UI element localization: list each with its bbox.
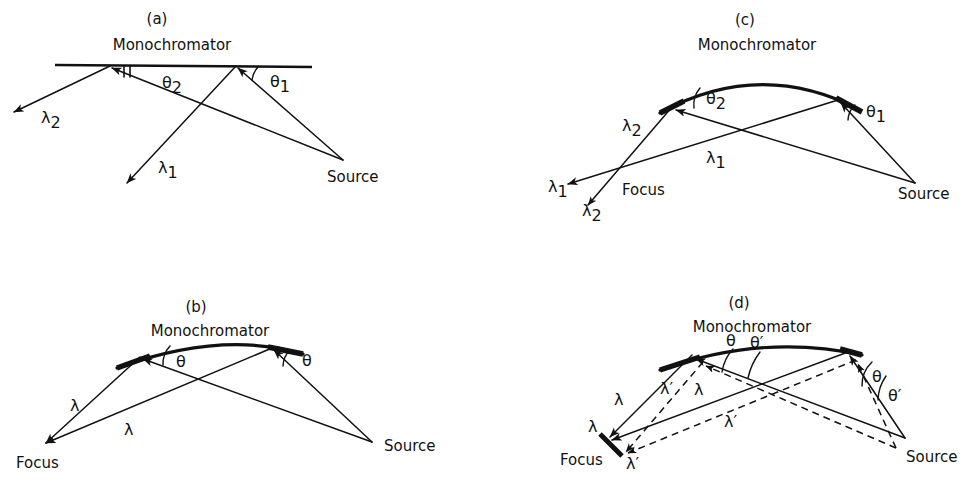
theta-left-label-d: θ xyxy=(726,331,736,350)
panel-a: (a) Monochromator θ2 θ1 λ2 xyxy=(14,10,379,186)
panel-c-title: Monochromator xyxy=(698,36,817,54)
monochromator-curved-surface-c xyxy=(660,85,860,113)
ray-source-to-left-point-b xyxy=(143,359,372,442)
monochromator-flat-surface xyxy=(55,65,312,67)
theta-right-label-d: θ xyxy=(872,367,882,386)
focus-label-c: Focus xyxy=(622,181,665,199)
figure-root: (a) Monochromator θ2 θ1 λ2 xyxy=(0,0,980,489)
lambda2-end-label-c: λ2 xyxy=(582,201,602,225)
lambda2-upper-label-c: λ2 xyxy=(622,116,642,140)
lambda-upper-label-b: λ xyxy=(70,396,79,415)
panel-b-title: Monochromator xyxy=(151,322,270,340)
ray-lambda2-diffracted xyxy=(14,66,110,112)
diagram-canvas: (a) Monochromator θ2 θ1 λ2 xyxy=(0,0,980,489)
lambda-prime-focus-label-d: λ′ xyxy=(626,454,639,473)
source-label-d: Source xyxy=(906,448,958,466)
source-label-c: Source xyxy=(898,185,950,203)
theta-prime-right-label-d: θ′ xyxy=(888,386,902,405)
theta-prime-left-label-d: θ′ xyxy=(750,333,764,352)
panel-a-caption: (a) xyxy=(147,10,168,28)
theta-left-arc-b xyxy=(163,346,170,365)
ray-source-to-right-point-b xyxy=(274,350,372,442)
lambda-prime-mid-label-d: λ′ xyxy=(724,412,737,431)
ray-lambda1-through-focus xyxy=(568,100,838,184)
ray-lambda-right-to-focus xyxy=(46,348,272,443)
ray-source-to-right-point xyxy=(238,68,343,160)
lambda-mid-label-d: λ xyxy=(694,380,703,399)
theta-prime-left-arc-d xyxy=(748,352,760,378)
ray-source-to-left-point xyxy=(112,68,343,160)
monochromator-edge-right-b xyxy=(268,347,303,354)
focus-label-d: Focus xyxy=(560,451,603,469)
panel-d: (d) Monochromator θ θ′ xyxy=(560,294,958,473)
panel-b: (b) Monochromator θ θ λ λ Focus Source xyxy=(16,298,436,472)
panel-c: (c) Monochromator θ2 θ1 λ2 xyxy=(548,11,950,225)
lambda2-label: λ2 xyxy=(41,108,61,132)
theta1-angle-arc xyxy=(252,67,258,80)
monochromator-edge-right-c xyxy=(836,98,862,112)
lambda-prime-upper-label-d: λ′ xyxy=(660,379,673,398)
panel-d-caption: (d) xyxy=(728,294,749,312)
lambda-upper-left-label-d: λ xyxy=(614,390,623,409)
theta2-label: θ2 xyxy=(162,73,182,97)
theta-left-label-b: θ xyxy=(176,352,186,371)
lambda1-upper-label-c: λ1 xyxy=(706,148,726,172)
theta1-label-c: θ1 xyxy=(866,102,886,126)
panel-c-caption: (c) xyxy=(735,11,755,29)
ray-prime-source-to-left-point-d xyxy=(706,366,896,448)
source-label-b: Source xyxy=(384,437,436,455)
source-label-a: Source xyxy=(327,168,379,186)
lambda-lower-label-b: λ xyxy=(124,420,133,439)
theta1-label: θ1 xyxy=(270,72,290,96)
lambda-focus-label-d: λ xyxy=(588,417,597,436)
panel-b-caption: (b) xyxy=(185,298,206,316)
lambda1-label: λ1 xyxy=(158,158,178,182)
lambda1-end-label-c: λ1 xyxy=(548,177,568,201)
theta-right-label-b: θ xyxy=(302,351,312,370)
panel-a-title: Monochromator xyxy=(113,36,232,54)
focus-label-b: Focus xyxy=(16,454,59,472)
